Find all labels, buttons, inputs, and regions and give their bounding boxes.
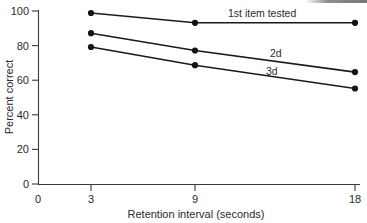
line-chart-plot: 100 80 60 40 20 0 0 3 9 18 (0, 0, 367, 223)
series-marker-2d-9 (192, 47, 198, 53)
series-marker-1st-item-tested-3 (88, 10, 94, 16)
x-tick-label-0: 0 (35, 193, 41, 205)
y-tick-label-0: 0 (23, 178, 29, 190)
x-axis-title: Retention interval (seconds) (128, 208, 265, 220)
series-annotation-2d: 2d (270, 47, 282, 59)
series-marker-3d-9 (192, 62, 198, 68)
y-tick-label-20: 20 (17, 143, 29, 155)
series-annotation-1st-item-tested: 1st item tested (228, 7, 296, 19)
x-axis-tick-labels: 0 3 9 18 (35, 193, 361, 205)
series-annotation-3d: 3d (266, 65, 278, 77)
y-tick-label-80: 80 (17, 40, 29, 52)
chart-figure: 100 80 60 40 20 0 0 3 9 18 (0, 0, 367, 223)
series-line-2d (91, 33, 355, 72)
series-marker-2d-3 (88, 30, 94, 36)
series-line-3d (91, 47, 355, 89)
y-tick-label-60: 60 (17, 74, 29, 86)
y-tick-label-100: 100 (11, 5, 29, 17)
series-line-1st-item-tested (91, 13, 355, 23)
x-tick-label-3: 3 (88, 193, 94, 205)
series-marker-3d-3 (88, 44, 94, 50)
x-tick-label-18: 18 (349, 193, 361, 205)
series-marker-1st-item-tested-9 (192, 20, 198, 26)
y-axis-title: Percent correct (3, 60, 15, 135)
series-marker-3d-18 (352, 85, 358, 91)
x-tick-label-9: 9 (192, 193, 198, 205)
y-tick-label-40: 40 (17, 109, 29, 121)
series-marker-1st-item-tested-18 (352, 20, 358, 26)
series-marker-2d-18 (352, 69, 358, 75)
